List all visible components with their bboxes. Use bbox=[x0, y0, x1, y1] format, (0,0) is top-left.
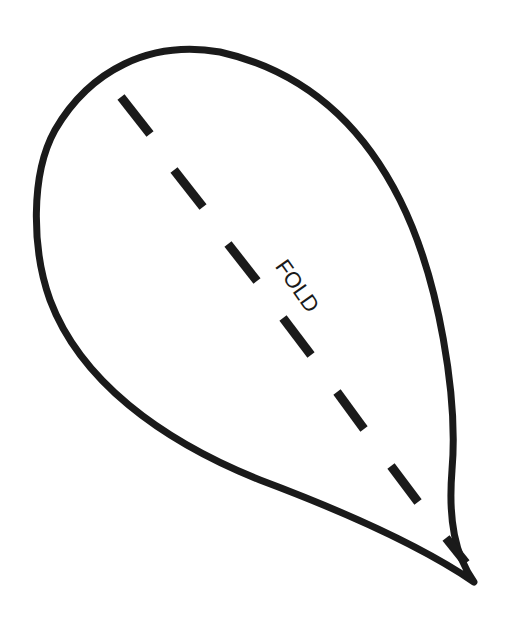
fold-template-diagram: FOLD bbox=[0, 0, 522, 631]
